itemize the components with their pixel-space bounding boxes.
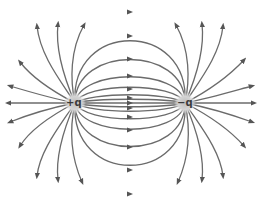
closed-field-lines-top bbox=[75, 41, 185, 103]
dipole-field-diagram: +q −q bbox=[0, 0, 260, 204]
closed-field-lines-bottom bbox=[75, 103, 185, 165]
field-lines-canvas bbox=[0, 0, 260, 204]
arrowheads-closed bbox=[127, 10, 133, 197]
positive-charge-label: +q bbox=[66, 98, 82, 108]
negative-charge-label: −q bbox=[177, 98, 193, 108]
